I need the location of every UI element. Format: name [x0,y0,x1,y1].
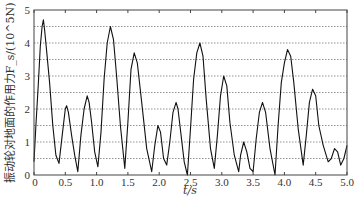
x-tick-label: 5.0 [340,176,354,188]
y-tick-label: 3 [25,70,31,82]
y-tick-label: 0 [25,169,31,181]
x-tick-label: 4.0 [278,176,292,188]
x-tick-label: 0 [32,176,38,188]
x-tick-label: 1.0 [90,176,104,188]
x-tick-label: 0.5 [58,176,72,188]
x-axis-label: t/s [183,184,197,197]
x-tick-label: 3.5 [246,176,260,188]
y-tick-label: 2 [25,103,31,115]
x-tick-label: 3.0 [215,176,229,188]
force-time-chart: 00.51.01.52.02.53.03.54.04.55.0012345 t/… [0,0,356,206]
axis-ticks: 00.51.01.52.02.53.03.54.04.55.0012345 [25,4,355,188]
x-tick-label: 4.5 [309,176,323,188]
x-tick-label: 1.5 [121,176,135,188]
y-tick-label: 5 [25,4,31,16]
y-tick-label: 1 [25,136,31,148]
y-axis-label: 振动轮对地面的作用力F_s/(10^5N) [3,3,17,184]
x-tick-label: 2.0 [152,176,166,188]
y-tick-label: 4 [25,37,31,49]
